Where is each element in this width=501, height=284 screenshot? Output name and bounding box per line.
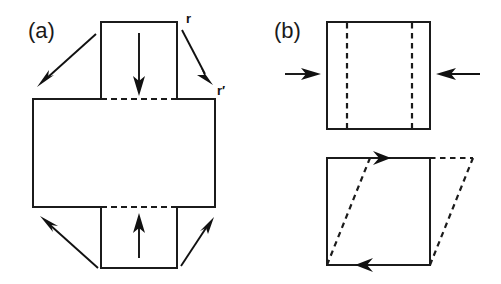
panel-b-top-square-group [327, 22, 430, 129]
panel-b-top-square-fill [327, 22, 430, 129]
panel-b-label: (b) [274, 18, 301, 43]
panel-a-label: (a) [28, 18, 55, 43]
vector-label-r: r [186, 11, 191, 26]
panel-b-bottom-square-fill [327, 158, 430, 265]
figure-canvas: (a) [0, 0, 501, 284]
vector-label-r-prime: r′ [217, 83, 225, 98]
figure-root: (a) [0, 0, 501, 284]
